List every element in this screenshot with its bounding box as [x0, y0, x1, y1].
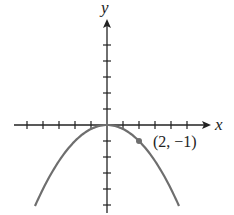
graph: x y (2, −1) — [0, 0, 234, 215]
axes — [14, 19, 211, 213]
point-marker — [136, 138, 142, 144]
x-axis-label: x — [214, 115, 223, 134]
y-axis-label: y — [99, 0, 109, 17]
point-label: (2, −1) — [153, 133, 197, 151]
